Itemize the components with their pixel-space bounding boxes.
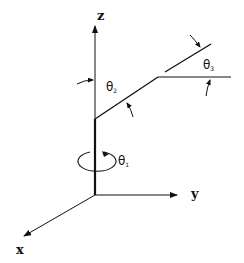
z-axis-label: z (97, 8, 104, 23)
theta3-arrow-top-icon (190, 35, 200, 47)
x-axis (24, 195, 95, 236)
theta1-rotation-icon (78, 151, 116, 171)
theta2-arrow-left-icon (77, 80, 93, 84)
theta3-label: θ3 (203, 58, 214, 72)
theta2-label: θ2 (106, 80, 117, 94)
robot-arm-diagram: z y x θ2 θ1 θ3 (0, 0, 244, 263)
y-axis-label: y (190, 186, 199, 201)
link-2 (95, 77, 158, 119)
x-axis-label: x (16, 242, 24, 257)
theta1-label: θ1 (118, 154, 129, 168)
theta3-arrow-bottom-icon (206, 80, 210, 96)
theta2-arrow-right-icon (127, 103, 133, 117)
